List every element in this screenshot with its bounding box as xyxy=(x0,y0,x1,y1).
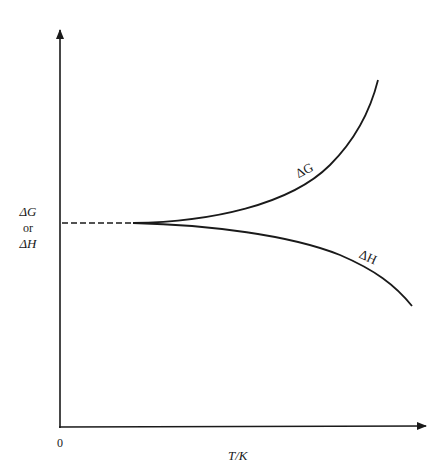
y-label-delta-g: ΔG xyxy=(19,204,36,219)
delta-g-curve xyxy=(133,80,378,223)
x-axis-label: T/K xyxy=(228,448,248,463)
x-axis xyxy=(59,426,426,427)
y-label-or: or xyxy=(23,221,33,235)
y-axis-label: ΔG or ΔH xyxy=(6,204,50,252)
origin-label: 0 xyxy=(57,436,63,451)
y-label-delta-h: ΔH xyxy=(19,236,36,251)
chart-canvas xyxy=(0,0,445,469)
